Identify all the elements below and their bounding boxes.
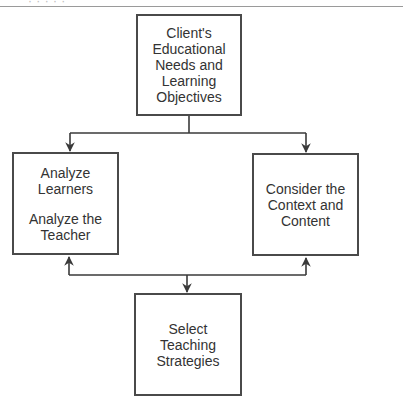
node-analyze-learners-teacher: Analyze Learners Analyze the Teacher [12, 152, 119, 255]
node-text-line: Learners [38, 181, 93, 197]
node-text-line: Select [169, 321, 208, 337]
bottom-junction-connector [69, 257, 306, 292]
node-text-line: Content [281, 213, 330, 229]
node-text-line: Consider the [266, 181, 345, 197]
header-rule [0, 6, 403, 7]
node-text-line: Context and [268, 197, 344, 213]
node-teaching-strategies: Select Teaching Strategies [134, 293, 242, 396]
node-text-line: Client's [166, 25, 211, 41]
top-splitter-connector [70, 116, 306, 152]
node-text-line: Objectives [156, 89, 221, 105]
node-text-line: Strategies [156, 353, 219, 369]
node-text-line: Analyze [41, 165, 91, 181]
node-text-line: Needs and [155, 57, 223, 73]
node-text-line: Educational [152, 41, 225, 57]
node-context-content: Consider the Context and Content [252, 153, 359, 256]
node-text-line: Analyze the [29, 211, 102, 227]
node-text-line: Teaching [160, 337, 216, 353]
node-text-line: Teacher [41, 227, 91, 243]
node-text-line: Learning [162, 73, 217, 89]
clipped-header-text: · · · · · [28, 0, 66, 4]
node-client-needs: Client's Educational Needs and Learning … [136, 14, 242, 116]
